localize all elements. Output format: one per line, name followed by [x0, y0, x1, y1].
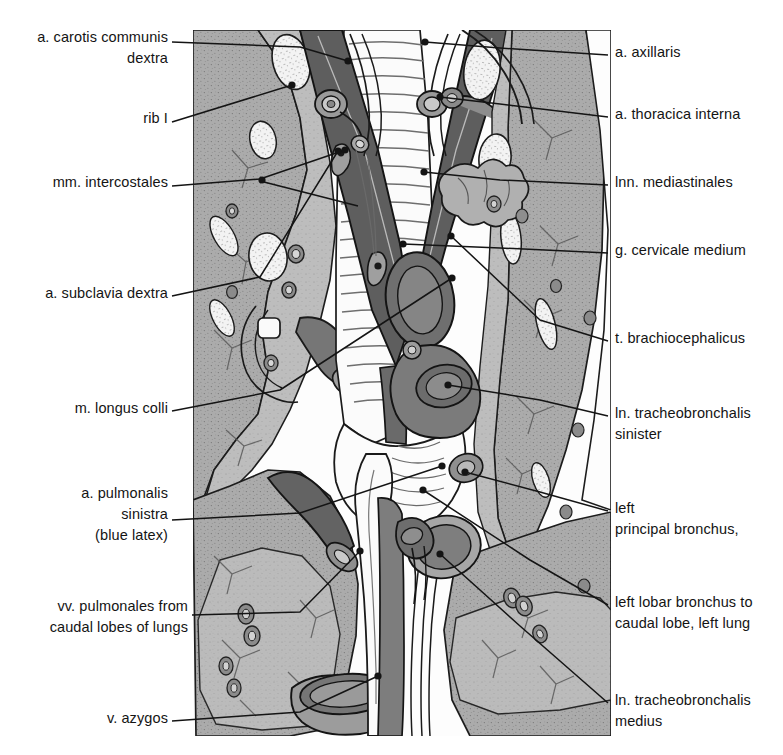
leader-endpoint-dot: [447, 232, 454, 239]
label-line: rib I: [8, 108, 168, 129]
label-line: dextra: [8, 48, 168, 69]
label-line: g. cervicale medium: [615, 240, 783, 261]
label-line: left lobar bronchus to: [615, 592, 783, 613]
label-ln-tracheobronchalis-sinister: ln. tracheobronchalissinister: [615, 403, 783, 445]
label-lnn-mediastinales: lnn. mediastinales: [615, 172, 783, 193]
illustration-body: [193, 30, 611, 736]
label-line: t. brachiocephalicus: [615, 328, 783, 349]
label-a-axillaris: a. axillaris: [615, 42, 783, 63]
label-line: lnn. mediastinales: [615, 172, 783, 193]
label-line: sinister: [615, 424, 783, 445]
label-line: a. subclavia dextra: [8, 283, 168, 304]
label-a-carotis-communis-dextra: a. carotis communisdextra: [8, 27, 168, 69]
label-line: left: [615, 498, 783, 519]
label-line: ln. tracheobronchalis: [615, 690, 783, 711]
leader-endpoint-dot: [356, 547, 363, 554]
label-mm-intercostales: mm. intercostales: [8, 172, 168, 193]
leader-endpoint-dot: [448, 274, 455, 281]
label-ln-tracheobronchalis-medius: ln. tracheobronchalismedius: [615, 690, 783, 732]
label-line: principal bronchus,: [615, 519, 783, 540]
label-line: a. pulmonalis: [8, 483, 168, 504]
label-line: a. thoracica interna: [615, 104, 783, 125]
label-line: sinistra: [8, 504, 168, 525]
label-line: (blue latex): [8, 525, 168, 546]
label-vv-pulmonales-caudal-lobes: vv. pulmonales fromcaudal lobes of lungs: [8, 596, 188, 638]
label-g-cervicale-medium: g. cervicale medium: [615, 240, 783, 261]
label-line: medius: [615, 711, 783, 732]
leader-endpoint-dot: [399, 240, 406, 247]
leader-endpoint-dot: [420, 168, 427, 175]
leader-endpoint-dot: [461, 468, 468, 475]
leader-endpoint-dot: [341, 146, 348, 153]
label-line: a. carotis communis: [8, 27, 168, 48]
leader-endpoint-dot: [288, 81, 295, 88]
leader-endpoint-dot: [344, 57, 351, 64]
label-line: v. azygos: [8, 708, 168, 729]
label-line: mm. intercostales: [8, 172, 168, 193]
leader-endpoint-dot: [421, 38, 428, 45]
label-a-subclavia-dextra: a. subclavia dextra: [8, 283, 168, 304]
label-line: m. longus colli: [8, 398, 168, 419]
leader-endpoint-dot: [374, 672, 381, 679]
leader-endpoint-dot: [258, 176, 265, 183]
leader-endpoint-dot: [436, 93, 443, 100]
label-line: a. axillaris: [615, 42, 783, 63]
label-left-lobar-bronchus-caudal: left lobar bronchus tocaudal lobe, left …: [615, 592, 783, 634]
leader-endpoint-dot: [436, 550, 443, 557]
label-left-principal-bronchus: leftprincipal bronchus,: [615, 498, 783, 540]
label-line: caudal lobes of lungs: [8, 617, 188, 638]
label-line: caudal lobe, left lung: [615, 613, 783, 634]
label-a-thoracica-interna: a. thoracica interna: [615, 104, 783, 125]
label-line: ln. tracheobronchalis: [615, 403, 783, 424]
leader-endpoint-dot: [334, 147, 341, 154]
label-t-brachiocephalicus: t. brachiocephalicus: [615, 328, 783, 349]
label-rib-i: rib I: [8, 108, 168, 129]
label-v-azygos: v. azygos: [8, 708, 168, 729]
leader-endpoint-dot: [444, 381, 451, 388]
label-m-longus-colli: m. longus colli: [8, 398, 168, 419]
leader-endpoint-dot: [438, 462, 445, 469]
label-line: vv. pulmonales from: [8, 596, 188, 617]
leader-endpoint-dot: [419, 486, 426, 493]
label-a-pulmonalis-sinistra: a. pulmonalissinistra(blue latex): [8, 483, 168, 546]
